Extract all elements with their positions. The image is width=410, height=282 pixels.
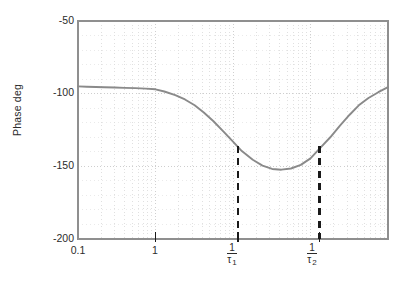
grid-layer <box>78 21 388 239</box>
plot-canvas <box>0 0 410 282</box>
phase-curve <box>78 86 388 169</box>
bode-phase-plot: Phase deg -50 -100 -150 -200 0.1 1 1 τ1 … <box>0 0 410 282</box>
x-axis-tick-marks <box>156 232 320 242</box>
